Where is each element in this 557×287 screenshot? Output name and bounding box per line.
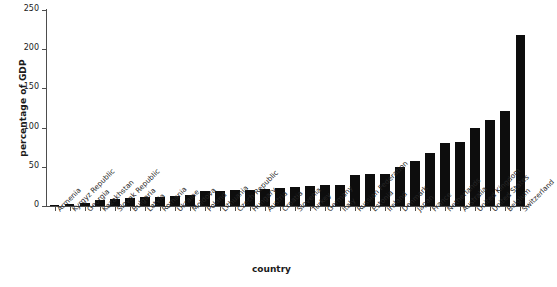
y-axis-tick: 250 xyxy=(42,10,47,11)
plot-area: 050100150200250 xyxy=(47,10,528,206)
y-axis-tick: 200 xyxy=(42,49,47,50)
y-axis-tick: 100 xyxy=(42,128,47,129)
y-axis-tick: 50 xyxy=(42,167,47,168)
y-axis-tick-label: 200 xyxy=(24,43,39,52)
y-axis-title: percentage of GDP xyxy=(18,33,28,183)
y-axis-tick-label: 50 xyxy=(29,161,39,170)
y-axis-tick-label: 250 xyxy=(24,4,39,13)
y-axis-tick: 150 xyxy=(42,88,47,89)
x-axis-tick-labels: ArmeniaKyrgyz RepublicGeorgiaKazakhstanS… xyxy=(47,205,528,263)
x-axis-title: country xyxy=(0,264,543,274)
y-axis-tick-label: 100 xyxy=(24,122,39,131)
y-axis-tick-label: 0 xyxy=(34,200,39,209)
y-axis-line xyxy=(46,9,47,207)
y-axis-tick-label: 150 xyxy=(24,82,39,91)
